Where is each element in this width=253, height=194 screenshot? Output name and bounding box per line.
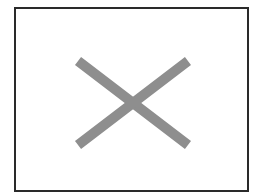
image-placeholder-frame xyxy=(14,7,249,192)
x-mark-icon xyxy=(16,9,247,190)
